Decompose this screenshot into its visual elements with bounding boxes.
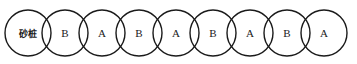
- pile-circle-label: B: [209, 27, 216, 39]
- pile-circle-label: B: [61, 27, 68, 39]
- pile-row-diagram: 砂桩BABABABA: [0, 0, 357, 64]
- pile-circle-label: B: [135, 27, 142, 39]
- pile-row-svg: 砂桩BABABABA: [0, 0, 357, 64]
- pile-circle-label: A: [246, 27, 254, 39]
- pile-circle-label: A: [172, 27, 180, 39]
- pile-circle-label: B: [283, 27, 290, 39]
- pile-circle-label: A: [320, 27, 328, 39]
- pile-circle-label: A: [98, 27, 106, 39]
- labels-layer: 砂桩BABABABA: [19, 27, 328, 39]
- pile-circle-label: 砂桩: [19, 28, 37, 39]
